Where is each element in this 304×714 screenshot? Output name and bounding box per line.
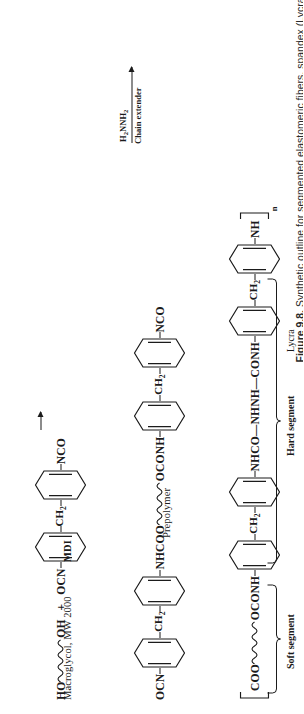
ch2-subscript: 2 [252, 280, 261, 284]
bond [159, 606, 160, 612]
ch2-bridge-4: CH2 [247, 514, 261, 534]
oconh-link-3: OCONH [248, 576, 260, 620]
bond [159, 395, 160, 401]
reaction-step-2: OCN CH2 NHCOO OCONH [133, 306, 185, 700]
oconh-link: OCONH [153, 437, 165, 481]
bond [254, 300, 255, 306]
ch2-subscript: 2 [157, 374, 166, 378]
arrow-line [131, 67, 132, 143]
prepolymer-label: Prepolymer [160, 488, 171, 538]
soft-segment-label: Soft segment [284, 614, 295, 669]
bond [159, 332, 160, 338]
nh-end-group: NH [248, 220, 260, 238]
reagent-h: H [117, 135, 127, 142]
coo-group: COO [248, 664, 260, 691]
figure-caption: Figure 9.8. Synthetic outline for segmen… [295, 0, 304, 363]
soft-segment-brace [266, 584, 282, 694]
ch2-text: CH [246, 517, 258, 534]
bond [254, 238, 255, 244]
ch2-subscript: 2 [157, 612, 166, 616]
bond [159, 668, 160, 674]
ch2-bridge-3: CH2 [152, 374, 166, 394]
ch2-text: CH [52, 510, 64, 527]
step1-arrow [40, 412, 41, 430]
benzene-ring [133, 401, 185, 431]
bond [254, 274, 255, 280]
benzene-ring [133, 338, 185, 368]
synthesis-scheme: HO OH + OCN CH2 [0, 0, 303, 714]
benzene-ring [34, 470, 86, 500]
hard-segment-label: Hard segment [284, 396, 295, 456]
ch2-subscript: 2 [58, 506, 67, 510]
chain-extender-reagent: H2NNH2 [118, 110, 130, 142]
benzene-ring [34, 532, 86, 562]
ch2-text: CH [246, 284, 258, 301]
lycra-brace [216, 278, 230, 564]
chain-extender-label: Chain extender [133, 87, 142, 144]
bond [254, 508, 255, 514]
reagent-sub1: 2 [122, 132, 129, 135]
macroglycol-label: Macroglycol, MW 2000 [61, 596, 72, 700]
reaction-step-1: HO OH + OCN CH2 [34, 438, 86, 700]
figure-caption-label: Figure 9.8. [295, 310, 304, 363]
chain-extender-arrow-group: H2NNH2 Chain extender [118, 62, 142, 148]
nco-group-1: NCO [54, 438, 66, 464]
repeat-index-n: n [268, 206, 278, 211]
bond [159, 632, 160, 638]
ocn-group-1: OCN [54, 568, 66, 594]
repeat-bracket-close [239, 211, 269, 220]
bond [254, 472, 255, 478]
hard-segment-brace [266, 278, 282, 564]
bond [254, 534, 255, 540]
ocn-group-2: OCN [153, 674, 165, 700]
bond [60, 562, 61, 568]
bond [60, 500, 61, 506]
ch2-bridge-1: CH2 [53, 506, 67, 526]
ch2-text: CH [151, 378, 163, 395]
bond [254, 336, 255, 342]
repeat-bracket-open [239, 691, 269, 700]
figure-rotation-frame: HO OH + OCN CH2 [0, 0, 303, 714]
reagent-nnh: NNH [117, 113, 127, 132]
benzene-ring [228, 244, 280, 274]
bond [60, 526, 61, 532]
ch2-text: CH [151, 615, 163, 632]
mdi-label: MDI [61, 540, 72, 562]
bond [159, 431, 160, 437]
urea-linkage: NHCO—NHNH—CONH [248, 342, 260, 471]
benzene-ring [133, 576, 185, 606]
figure-caption-text: Synthetic outline for segmented elastome… [295, 0, 304, 307]
nco-group-2: NCO [153, 306, 165, 332]
bond [159, 368, 160, 374]
ch2-bridge-5: CH2 [247, 280, 261, 300]
bond [254, 570, 255, 576]
benzene-ring [133, 638, 185, 668]
ch2-subscript: 2 [252, 514, 261, 518]
lycra-label: Lycra [284, 329, 295, 352]
bond [60, 464, 61, 470]
ch2-bridge-2: CH2 [152, 612, 166, 632]
bond [159, 570, 160, 576]
reagent-sub2: 2 [122, 110, 129, 113]
soft-segment-wavy-chain [248, 620, 260, 664]
